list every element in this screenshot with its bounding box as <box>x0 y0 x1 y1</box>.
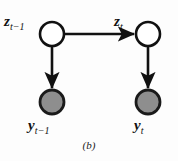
latent-node-z-prev <box>40 22 64 46</box>
node-label-y-prev: yt−1 <box>28 118 49 136</box>
state-space-model-figure: zt−1 zt yt−1 yt (b) <box>0 0 178 161</box>
node-label-y-prev-main: y <box>28 117 35 133</box>
graph-canvas <box>0 0 178 161</box>
observed-node-y-cur <box>136 90 160 114</box>
node-label-z-prev-subscript: t−1 <box>10 21 25 32</box>
figure-caption: (b) <box>0 139 178 151</box>
latent-node-z-cur <box>136 22 160 46</box>
observed-node-y-prev <box>40 90 64 114</box>
node-label-z-cur-subscript: t <box>120 21 123 32</box>
node-label-y-cur-subscript: t <box>141 125 144 136</box>
node-label-z-cur: zt <box>114 14 123 32</box>
node-label-y-prev-subscript: t−1 <box>35 125 50 136</box>
node-label-z-prev: zt−1 <box>4 14 25 32</box>
node-label-y-cur-main: y <box>134 117 141 133</box>
node-label-y-cur: yt <box>134 118 144 136</box>
